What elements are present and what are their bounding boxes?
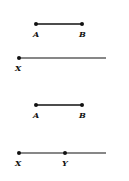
label-a: A: [32, 110, 39, 120]
label-x: X: [14, 63, 22, 73]
geometry-diagram: A B X A B X Y: [0, 0, 129, 181]
point-x-icon: [17, 151, 21, 155]
ray-x-top: X: [14, 56, 106, 73]
label-x: X: [14, 158, 22, 168]
segment-ab-bottom: A B: [32, 103, 86, 120]
point-a-icon: [34, 103, 38, 107]
point-y-icon: [63, 151, 67, 155]
point-b-icon: [80, 103, 84, 107]
label-a: A: [32, 29, 39, 39]
point-x-icon: [17, 56, 21, 60]
label-y: Y: [62, 158, 69, 168]
point-a-icon: [34, 22, 38, 26]
label-b: B: [78, 110, 86, 120]
ray-xy-bottom: X Y: [14, 151, 106, 168]
point-b-icon: [80, 22, 84, 26]
segment-ab-top: A B: [32, 22, 86, 39]
label-b: B: [78, 29, 86, 39]
